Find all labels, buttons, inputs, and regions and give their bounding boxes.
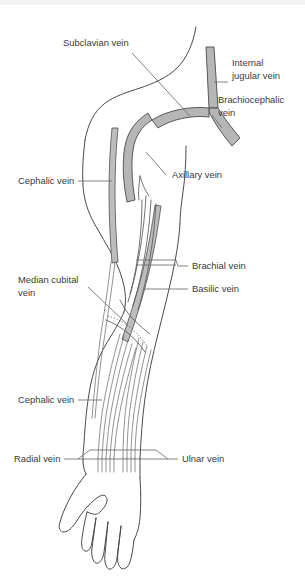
label-median-cubital-vein-line2: vein xyxy=(18,287,35,298)
label-brachial-vein: Brachial vein xyxy=(192,260,246,271)
label-basilic-vein: Basilic vein xyxy=(192,283,239,294)
label-brachiocephalic-vein-line1: Brachiocephalic xyxy=(218,94,284,105)
brachial-vein-apex xyxy=(140,176,149,196)
ulnar-vein-bundle-group xyxy=(123,338,151,472)
label-axillary-vein: Axillary vein xyxy=(172,169,222,180)
anatomical-diagram-veins-of-upper-limb: Subclavian vein Internal jugular vein Br… xyxy=(0,0,305,582)
label-cephalic-vein-lower: Cephalic vein xyxy=(18,394,74,405)
leader-median-cubital-vein xyxy=(88,287,128,325)
brachial-vein-apex-2 xyxy=(139,176,140,200)
subclavian-vein-shape xyxy=(152,108,209,129)
top-edge-band xyxy=(0,0,305,5)
label-subclavian-vein: Subclavian vein xyxy=(63,37,129,48)
label-internal-jugular-vein-line2: jugular vein xyxy=(231,70,280,81)
cephalic-vein-upper-shape xyxy=(109,128,118,263)
hand-right-outline xyxy=(134,478,141,540)
diagram-canvas: Subclavian vein Internal jugular vein Br… xyxy=(0,0,305,582)
hand-outline-group xyxy=(59,474,141,569)
finger-ring-outline xyxy=(92,518,108,563)
label-internal-jugular-vein-line1: Internal xyxy=(232,57,263,68)
radial-vein-line-1 xyxy=(102,336,124,458)
label-cephalic-vein-upper: Cephalic vein xyxy=(18,175,74,186)
torso-left-outline xyxy=(83,140,113,256)
internal-jugular-vein-shape xyxy=(206,47,218,108)
label-ulnar-vein: Ulnar vein xyxy=(182,453,224,464)
thumb-outline xyxy=(88,495,107,512)
label-brachiocephalic-vein-line2: vein xyxy=(218,107,235,118)
hand-thumb-web-outline xyxy=(87,512,100,514)
label-median-cubital-vein-line1: Median cubital xyxy=(18,274,78,285)
wrist-left-outline xyxy=(83,460,86,474)
major-vessels-group xyxy=(109,47,240,342)
radial-vein-line-2 xyxy=(106,340,128,458)
axillary-vein-shape xyxy=(123,113,152,202)
inner-arm-outline xyxy=(180,146,186,224)
radial-vein-bundle-group xyxy=(98,334,136,472)
leader-axillary-vein xyxy=(146,152,166,175)
hand-palm-outline xyxy=(59,474,88,532)
cephalic-vein-lower-group xyxy=(92,262,115,418)
label-radial-vein: Radial vein xyxy=(14,453,60,464)
finger-little-outline xyxy=(82,512,96,551)
leader-radial-vein xyxy=(64,450,178,459)
